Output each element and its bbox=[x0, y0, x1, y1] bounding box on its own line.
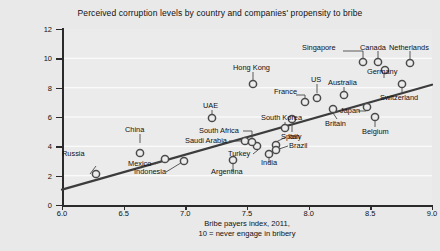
x-tick-label-75: 7.5 bbox=[234, 209, 260, 218]
y-axis bbox=[62, 28, 64, 206]
point-label-germany: Germany bbox=[367, 68, 397, 76]
point-label-spain: Spain bbox=[281, 133, 300, 141]
y-tick-label-8: 8 bbox=[36, 84, 52, 93]
y-tick-6 bbox=[56, 117, 62, 118]
point-label-japan: Japan bbox=[340, 107, 360, 115]
point-label-france: France bbox=[274, 88, 297, 96]
point-label-hong-kong: Hong Kong bbox=[233, 64, 270, 72]
y-tick-label-6: 6 bbox=[36, 113, 52, 122]
point-label-netherlands: Netherlands bbox=[389, 44, 429, 52]
y-tick-12 bbox=[56, 29, 62, 30]
gridlines bbox=[62, 29, 432, 205]
point-label-australia: Australia bbox=[328, 79, 357, 87]
y-tick-10 bbox=[56, 58, 62, 59]
point-label-turkey: Turkey bbox=[228, 150, 250, 158]
point-label-indonesia: Indonesia bbox=[134, 168, 166, 176]
point-label-russia: Russia bbox=[62, 150, 85, 158]
plot-area bbox=[62, 29, 432, 205]
y-tick-label-4: 4 bbox=[36, 142, 52, 151]
point-label-switzerland: Switzerland bbox=[380, 94, 418, 102]
x-tick-label-65: 6.5 bbox=[111, 209, 137, 218]
point-label-argentina: Argentina bbox=[211, 168, 243, 176]
point-label-britain: Britain bbox=[325, 120, 346, 128]
chart-title: Perceived corruption levels by country a… bbox=[0, 8, 440, 18]
y-tick-4 bbox=[56, 146, 62, 147]
x-tick-label-90: 9.0 bbox=[419, 209, 440, 218]
point-label-us: US bbox=[311, 76, 321, 84]
chart-root: Perceived corruption levels by country a… bbox=[0, 0, 440, 251]
point-label-south-korea: South Korea bbox=[261, 114, 302, 122]
point-label-brazil: Brazil bbox=[289, 142, 307, 150]
x-tick-label-85: 8.5 bbox=[357, 209, 383, 218]
x-tick-label-80: 8.0 bbox=[296, 209, 322, 218]
point-label-saudi-arabia: Saudi Arabia bbox=[185, 137, 227, 145]
point-label-india: India bbox=[261, 159, 277, 167]
y-tick-label-2: 2 bbox=[36, 172, 52, 181]
point-label-canada: Canada bbox=[360, 44, 386, 52]
point-label-belgium: Belgium bbox=[362, 128, 389, 136]
point-label-uae: UAE bbox=[203, 102, 218, 110]
point-label-singapore: Singapore bbox=[302, 44, 336, 52]
point-label-south-africa: South Africa bbox=[199, 127, 239, 135]
y-tick-8 bbox=[56, 88, 62, 89]
x-tick-label-70: 7.0 bbox=[172, 209, 198, 218]
point-label-china: China bbox=[125, 126, 144, 134]
y-tick-label-10: 10 bbox=[36, 54, 52, 63]
y-tick-label-12: 12 bbox=[36, 25, 52, 34]
x-axis-title: Bribe payers index, 2011, 10 = never eng… bbox=[62, 219, 432, 238]
x-tick-label-60: 6.0 bbox=[49, 209, 75, 218]
y-tick-2 bbox=[56, 176, 62, 177]
